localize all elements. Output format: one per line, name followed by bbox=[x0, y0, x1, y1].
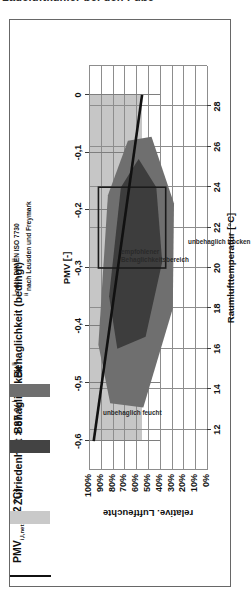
ticklabel-temperature: 28 bbox=[213, 99, 222, 113]
tick-temperature bbox=[207, 146, 211, 147]
ticklabel-humidity: 80% bbox=[108, 474, 117, 504]
annotation-empfohlener-bereich: empfohlenerBehaglichkeitsbereich bbox=[121, 248, 189, 263]
ticklabel-humidity: 30% bbox=[167, 474, 176, 504]
rotated-figure-stage: PMVi,l,net (22 °C) Zufriedenheit > 87 %i… bbox=[10, 20, 230, 586]
ticklabel-humidity: 40% bbox=[155, 474, 164, 504]
tick-temperature bbox=[207, 186, 211, 187]
tick-temperature bbox=[207, 388, 211, 389]
ticklabel-humidity: 10% bbox=[190, 474, 199, 504]
comfort-chart-plot: unbehaglich feuchtunbehaglich trockenemp… bbox=[89, 66, 207, 470]
ticklabel-humidity: 70% bbox=[119, 474, 128, 504]
ticklabel-temperature: 16 bbox=[213, 342, 222, 356]
tick-temperature bbox=[207, 348, 211, 349]
tick-temperature bbox=[207, 105, 211, 106]
legend-swatch-zufriedenheit bbox=[10, 511, 50, 524]
chart-legend: PMVi,l,net (22 °C) Zufriedenheit > 87 %i… bbox=[10, 20, 76, 586]
ticklabel-humidity: 0% bbox=[202, 474, 211, 504]
tick-pmv bbox=[85, 325, 89, 326]
ticklabel-pmv: -0,5 bbox=[74, 373, 83, 393]
ticklabel-temperature: 22 bbox=[213, 221, 222, 235]
ticklabel-temperature: 12 bbox=[213, 423, 222, 437]
tick-temperature bbox=[207, 307, 211, 308]
tick-temperature bbox=[207, 227, 211, 228]
ticklabel-humidity: 100% bbox=[84, 474, 93, 504]
annotation-unbehaglich-feucht: unbehaglich feucht bbox=[103, 409, 162, 416]
gridline-horizontal bbox=[207, 66, 208, 470]
legend-swatch-behaglichkeit bbox=[10, 440, 50, 453]
footnote-2: ii nach Leusden und Freymark bbox=[24, 201, 33, 296]
tick-temperature bbox=[207, 267, 211, 268]
annotation-line-2: Behaglichkeitsbereich bbox=[121, 256, 189, 263]
tick-pmv bbox=[85, 267, 89, 268]
legend-swatch-line-icon bbox=[10, 562, 51, 577]
cropped-page-heading: Ladeluftkühler bei den Füße bbox=[0, 0, 241, 7]
tick-pmv bbox=[85, 152, 89, 153]
ticklabel-temperature: 14 bbox=[213, 382, 222, 396]
footnote-1: i nach DIN EN ISO 7730 bbox=[12, 223, 21, 296]
tick-pmv bbox=[85, 382, 89, 383]
tick-pmv bbox=[85, 440, 89, 441]
plot-drawing-area: unbehaglich feuchtunbehaglich trockenemp… bbox=[89, 66, 207, 470]
ticklabel-pmv: -0,2 bbox=[74, 200, 83, 220]
ticklabel-pmv: -0,3 bbox=[74, 258, 83, 278]
legend-swatch-behaglichkeit-bedingt bbox=[10, 384, 50, 397]
ticklabel-temperature: 26 bbox=[213, 140, 222, 154]
ticklabel-temperature: 18 bbox=[213, 301, 222, 315]
axis-title-x: Raumlufttemperatur [°C] bbox=[226, 210, 236, 326]
annotation-line-1: empfohlener bbox=[121, 248, 159, 255]
ticklabel-temperature: 24 bbox=[213, 180, 222, 194]
axis-title-y: relative. Luftfeuchte bbox=[103, 509, 193, 519]
tick-pmv bbox=[85, 209, 89, 210]
ticklabel-pmv: 0 bbox=[74, 85, 83, 105]
figure-frame: PMVi,l,net (22 °C) Zufriedenheit > 87 %i… bbox=[9, 19, 231, 587]
ticklabel-temperature: 20 bbox=[213, 261, 222, 275]
ticklabel-humidity: 50% bbox=[143, 474, 152, 504]
ticklabel-humidity: 20% bbox=[178, 474, 187, 504]
ticklabel-humidity: 60% bbox=[131, 474, 140, 504]
cropped-heading-text: Ladeluftkühler bei den Füße bbox=[2, 0, 154, 3]
ticklabel-pmv: -0,1 bbox=[74, 143, 83, 163]
axis-title-pmv: PMV [-] bbox=[62, 248, 72, 288]
ticklabel-pmv: -0,6 bbox=[74, 431, 83, 451]
ticklabel-humidity: 90% bbox=[96, 474, 105, 504]
tick-pmv bbox=[85, 94, 89, 95]
ticklabel-pmv: -0,4 bbox=[74, 316, 83, 336]
tick-temperature bbox=[207, 429, 211, 430]
